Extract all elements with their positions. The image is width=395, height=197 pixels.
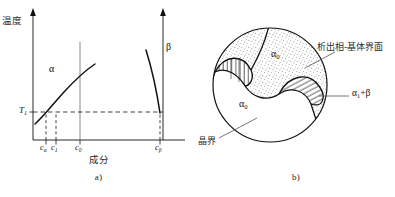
x-tick-label-c-beta: cβ	[155, 143, 162, 153]
x-axis-title: 成分	[0, 155, 197, 165]
grain-interior	[197, 14, 329, 160]
caption-b: b)	[197, 172, 395, 182]
right-axis-arrowhead	[160, 8, 166, 16]
axes	[30, 8, 185, 140]
y-tick-label-T1: T1	[19, 106, 27, 117]
label-precipitate-matrix-interface: 析出相-基体界面	[317, 43, 383, 52]
annotation-beta-phase: β	[166, 42, 171, 52]
label-matrix-alpha0-bottom: α0	[239, 99, 248, 110]
x-tick-label-c-alpha: cα	[40, 143, 47, 153]
x-axis-ticks	[46, 140, 160, 145]
y-axis-arrowhead	[30, 8, 36, 16]
label-alpha1-plus-beta: α1+β	[352, 89, 370, 99]
x-tick-label-c-0: c0	[75, 143, 82, 153]
x-tick-label-c-1: c1	[51, 143, 58, 153]
figure-a-phase-diagram: 温度 T1 cα c1 c0 cβ α β 成分	[0, 0, 197, 197]
figure-page: 温度 T1 cα c1 c0 cβ α β 成分	[0, 0, 395, 197]
label-matrix-alpha0-top: α0	[271, 49, 280, 60]
figure-b-microstructure: 析出相-基体界面 α1+β 晶界 α0 α0	[197, 0, 395, 197]
phase-diagram-canvas	[0, 0, 197, 197]
caption-a: a)	[0, 172, 197, 182]
beta-solvus-curve	[146, 50, 160, 113]
y-axis-title: 温度	[2, 16, 22, 26]
label-grain-boundary: 晶界	[198, 137, 216, 146]
annotation-alpha-phase: α	[49, 64, 54, 74]
alpha-solvus-curve	[35, 64, 95, 124]
